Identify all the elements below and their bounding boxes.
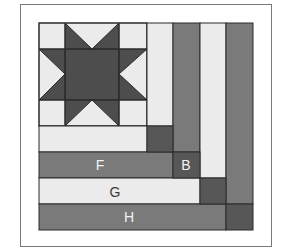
strip-column-3 [200, 23, 226, 178]
strip-row-f [39, 152, 173, 178]
star-center-square [65, 49, 119, 100]
strip-row-1 [39, 126, 147, 152]
label-h: H [124, 209, 134, 225]
quilt-block-diagram: F B G H [0, 0, 284, 251]
strip-column-2 [173, 23, 200, 152]
label-f: F [96, 157, 105, 173]
label-b: B [181, 157, 190, 173]
strip-column-4 [226, 23, 253, 204]
corner-square-3 [200, 178, 226, 204]
label-g: G [110, 184, 121, 200]
strip-column-1 [147, 23, 173, 126]
corner-square-4 [226, 204, 253, 230]
corner-square-1 [147, 126, 173, 152]
